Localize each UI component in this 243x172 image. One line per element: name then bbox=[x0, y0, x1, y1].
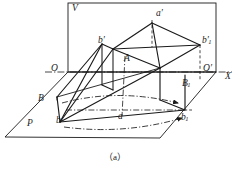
technical-drawing-figure: V a′ b′ b′1 A O O′ X B1 B a b1 b P （a） bbox=[0, 0, 243, 172]
label-b1-upper: B1 bbox=[182, 79, 191, 89]
plane-v-outline bbox=[68, 3, 216, 72]
construction-dashed-lines bbox=[152, 20, 200, 80]
label-axis-x: X bbox=[225, 72, 231, 82]
label-b-upper: B bbox=[38, 94, 44, 104]
label-a-lower: a bbox=[118, 112, 123, 122]
label-b1-prime: b′1 bbox=[202, 36, 212, 46]
label-b-lower: b bbox=[56, 116, 61, 126]
label-point-a-upper: A bbox=[124, 54, 130, 64]
label-b-prime: b′ bbox=[98, 36, 105, 46]
label-origin-o: O bbox=[51, 64, 58, 74]
label-origin-o-prime: O′ bbox=[203, 64, 212, 74]
label-b1-lower: b1 bbox=[181, 113, 189, 123]
label-plane-v: V bbox=[72, 4, 78, 14]
rotation-arc-upper bbox=[62, 96, 178, 104]
figure-caption: （a） bbox=[104, 150, 126, 163]
label-plane-p: P bbox=[27, 119, 33, 129]
label-a-prime: a′ bbox=[156, 9, 163, 19]
figure-canvas bbox=[0, 0, 243, 172]
